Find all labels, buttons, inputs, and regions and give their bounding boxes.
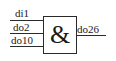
output-line <box>76 35 106 36</box>
and-gate-box: & <box>43 16 77 54</box>
input-line-3 <box>10 46 43 47</box>
ampersand-icon: & <box>44 17 76 53</box>
output-label: do26 <box>77 24 99 35</box>
input-label-3: do10 <box>11 35 33 46</box>
input-label-1: di1 <box>15 8 29 19</box>
input-label-2: do2 <box>13 22 30 33</box>
